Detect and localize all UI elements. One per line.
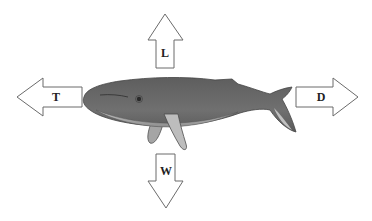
arrow-left-icon (17, 78, 82, 116)
arrow-down-icon (148, 154, 183, 208)
whale-illustration (83, 77, 296, 149)
whale-eye (137, 97, 141, 101)
force-diagram-canvas: L T D W (0, 0, 372, 221)
thrust-arrow: T (17, 78, 82, 116)
force-diagram: L T D W (0, 0, 372, 221)
thrust-label: T (52, 90, 60, 104)
arrow-right-icon (296, 78, 358, 116)
weight-label: W (160, 164, 172, 178)
drag-arrow: D (296, 78, 358, 116)
weight-arrow: W (148, 154, 183, 208)
lift-arrow: L (148, 14, 183, 68)
lift-label: L (161, 46, 169, 60)
drag-label: D (317, 90, 326, 104)
